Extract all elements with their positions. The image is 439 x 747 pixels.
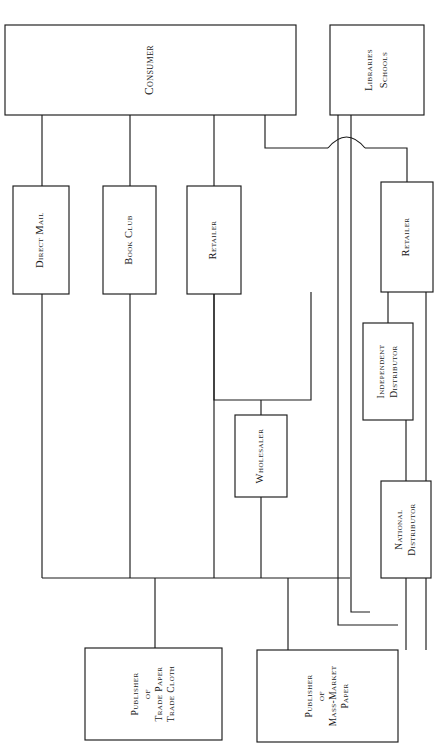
node-direct-mail[interactable]: Direct Mail	[13, 186, 69, 294]
node-label-publisher-trade-line-1: of	[142, 689, 152, 699]
node-label-publisher-trade-line-0: Publisher	[130, 672, 140, 715]
node-independent-distributor[interactable]: IndependentDistributor	[363, 323, 413, 420]
edge-consumer-hop-over-library-lines	[328, 137, 365, 148]
node-label-independent-distributor-line-1: Distributor	[389, 345, 399, 397]
node-label-wholesaler-line-0: Wholesaler	[254, 429, 265, 484]
node-label-national-distributor-line-0: National	[394, 509, 404, 549]
node-label-consumer-line-0: Consumer	[143, 45, 155, 95]
node-publisher-mass-market[interactable]: PublisherofMass-MarketPaper	[257, 650, 398, 742]
node-libraries-schools[interactable]: LibrariesSchools	[330, 25, 424, 115]
node-publisher-trade[interactable]: PublisherofTrade PaperTrade Cloth	[85, 648, 222, 740]
node-label-publisher-mass-market-line-3: Paper	[340, 683, 350, 708]
node-label-libraries-schools-line-1: Schools	[378, 52, 389, 89]
node-wholesaler[interactable]: Wholesaler	[235, 415, 287, 497]
node-retailer-right[interactable]: Retailer	[381, 182, 433, 292]
node-layer: ConsumerLibrariesSchoolsDirect MailBook …	[5, 25, 433, 742]
node-label-publisher-mass-market-line-1: of	[316, 691, 326, 701]
node-label-national-distributor-line-1: Distributor	[407, 503, 417, 555]
node-national-distributor[interactable]: NationalDistributor	[381, 481, 431, 578]
node-label-book-club-line-0: Book Club	[123, 215, 134, 264]
node-label-retailer-right-line-0: Retailer	[400, 218, 411, 257]
node-label-libraries-schools-line-0: Libraries	[363, 49, 374, 91]
node-retailer-left[interactable]: Retailer	[187, 186, 241, 294]
node-label-publisher-mass-market-line-0: Publisher	[304, 674, 314, 717]
node-label-publisher-trade-line-3: Trade Cloth	[166, 666, 176, 723]
edge-retailer-left-to-wholesaler	[214, 292, 311, 415]
node-label-publisher-trade-line-2: Trade Paper	[154, 667, 164, 722]
book-distribution-flow-diagram: ConsumerLibrariesSchoolsDirect MailBook …	[0, 0, 439, 747]
node-label-independent-distributor-line-0: Independent	[376, 344, 386, 398]
node-book-club[interactable]: Book Club	[103, 186, 156, 294]
edge-consumer-to-retailer-right	[265, 115, 407, 182]
node-label-publisher-mass-market-line-2: Mass-Market	[328, 665, 338, 726]
node-consumer[interactable]: Consumer	[5, 25, 296, 115]
node-label-retailer-left-line-0: Retailer	[207, 221, 218, 260]
node-label-direct-mail-line-0: Direct Mail	[34, 212, 45, 268]
flow-chart-canvas: ConsumerLibrariesSchoolsDirect MailBook …	[0, 0, 439, 747]
